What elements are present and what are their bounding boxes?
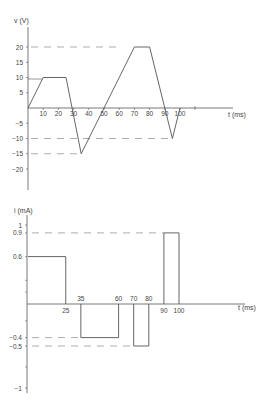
- x-tick-label: 90: [160, 307, 168, 314]
- voltage-current-figure: 2015105−5−10−15−20102030405060708090100 …: [0, 0, 269, 405]
- y-tick-label: 5: [19, 89, 23, 96]
- x-tick-label: 100: [175, 110, 186, 117]
- bottom-time-axis-label: t (ms): [238, 304, 256, 312]
- x-tick-label: 100: [174, 307, 185, 314]
- current-pulse: [81, 304, 119, 338]
- x-tick-label: 90: [161, 110, 169, 117]
- x-tick-label: 35: [77, 295, 85, 302]
- y-tick-label: 20: [16, 44, 24, 51]
- y-tick-label: −0.4: [9, 334, 22, 341]
- current-chart: 10.90.6−0.4−0.5−1356070802590100: [9, 215, 245, 393]
- x-tick-label: 40: [85, 110, 93, 117]
- current-pulse: [164, 233, 179, 304]
- current-pulse: [134, 304, 149, 346]
- y-tick-label: 0.9: [13, 229, 22, 236]
- voltage-axis-label: v (V): [14, 17, 29, 25]
- y-tick-label: −15: [12, 150, 23, 157]
- current-pulse: [28, 257, 66, 304]
- voltage-chart: 2015105−5−10−15−20102030405060708090100: [12, 27, 233, 190]
- x-tick-label: 20: [55, 110, 63, 117]
- y-tick-label: −5: [16, 120, 24, 127]
- x-tick-label: 60: [116, 110, 124, 117]
- y-tick-label: −20: [12, 166, 23, 173]
- current-axis-label: i (mA): [14, 207, 33, 215]
- y-tick-label: 15: [16, 59, 24, 66]
- x-tick-label: 10: [40, 110, 48, 117]
- y-tick-label: −1: [15, 385, 23, 392]
- y-tick-label: 0.6: [13, 253, 22, 260]
- x-tick-label: 25: [62, 307, 70, 314]
- voltage-waveform: [28, 47, 180, 154]
- x-tick-label: 70: [130, 295, 138, 302]
- y-tick-label: −10: [12, 135, 23, 142]
- y-tick-label: 10: [16, 74, 24, 81]
- x-tick-label: 70: [131, 110, 139, 117]
- x-tick-label: 80: [146, 110, 154, 117]
- x-tick-label: 60: [115, 295, 123, 302]
- x-tick-label: 80: [145, 295, 153, 302]
- top-time-axis-label: t (ms): [228, 111, 246, 119]
- y-tick-label: 1: [18, 222, 22, 229]
- y-tick-label: −0.5: [9, 343, 22, 350]
